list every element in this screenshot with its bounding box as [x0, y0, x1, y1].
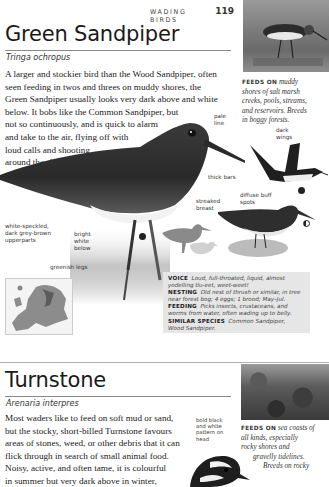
nesting-text: Old nest of thrush or similar, in tree	[201, 289, 301, 295]
title-rule	[5, 396, 231, 397]
nesting-label: NESTING	[168, 289, 197, 295]
flight-symbol-half-icon	[303, 220, 310, 227]
nesting-text: near forest bog; 4 eggs; 1 brood; May–Ju…	[168, 296, 305, 303]
body-line: Green Sandpiper usually looks very dark …	[5, 93, 218, 106]
feeds-on-green-sandpiper: FEEDS ON muddy shores of salt marsh cree…	[242, 78, 307, 126]
turnstone-head-illustration	[180, 448, 250, 487]
feeds-on-text: muddy	[279, 78, 298, 86]
annotation-thick-bars: thick bars	[208, 174, 236, 181]
voice-text: Loud, full-throated, liquid, almost	[192, 275, 285, 281]
standing-bird-illustration	[218, 200, 318, 260]
annotation-text: line	[214, 120, 226, 127]
body-line: Noisy, active, and often tame, it is col…	[5, 462, 180, 475]
voice-text: yodelling tlu-eet, weet-weet!	[168, 282, 305, 289]
annotation-text: streaked	[196, 198, 220, 205]
similar-species-text: Common Sandpiper,	[228, 318, 285, 324]
latin-name-turnstone: Arenaria interpres	[6, 399, 79, 408]
wading-bird-photo-icon	[243, 0, 329, 72]
green-sandpiper-photo	[243, 0, 329, 72]
feeds-on-text: creeks, pools, streams,	[242, 97, 307, 107]
body-line: but the stocky, short-billed Turnstone f…	[5, 425, 180, 438]
annotation-text: head	[196, 436, 223, 442]
annotation-dark-wings: dark wings	[276, 127, 292, 141]
body-line: flick through in search of small animal …	[5, 450, 180, 463]
feeds-on-text: rocky shores and	[241, 443, 315, 453]
body-line: A larger and stockier bird than the Wood…	[5, 68, 218, 81]
body-line: seen feeding in twos and threes on muddy…	[5, 81, 218, 94]
annotation-text: dark grey-brown	[5, 230, 51, 237]
feeds-on-text: all kinds, especially	[241, 434, 315, 444]
feeding-label: FEEDING	[168, 303, 197, 309]
similar-species-label: SIMILAR SPECIES	[168, 318, 225, 324]
annotation-text: pattern on	[196, 429, 223, 435]
feeds-on-text: sea coasts of	[278, 424, 315, 432]
feeding-text: worms from water, often wading up to bel…	[168, 310, 305, 317]
feeds-on-turnstone: FEEDS ON sea coasts of all kinds, especi…	[241, 424, 315, 472]
feeds-on-text: in boggy forests.	[242, 116, 307, 126]
annotation-text: upperparts	[5, 237, 51, 244]
annotation-text: white-speckled,	[5, 223, 51, 230]
species-info-box: VOICE Loud, full-throated, liquid, almos…	[163, 272, 310, 333]
latin-name-green-sandpiper: Tringa ochropus	[6, 53, 70, 62]
size-silhouette-icon	[160, 215, 220, 260]
running-head: WADING BIRDS 119	[150, 6, 234, 20]
annotation-text: bright	[74, 231, 91, 238]
feeding-text: Picks insects, crustaceans, and	[200, 303, 287, 309]
page-number: 119	[215, 6, 234, 16]
body-line: Most waders like to feed on soft mud or …	[5, 412, 180, 425]
annotation-pale-line: pale line	[214, 113, 226, 127]
annotation-text: breast	[196, 205, 220, 212]
feeds-on-text: and reservoirs. Breeds	[242, 107, 307, 117]
annotation-bright-white-below: bright white below	[74, 231, 91, 252]
flying-bird-illustration	[245, 140, 329, 190]
section-divider	[0, 362, 329, 363]
annotation-greenish-legs: greenish legs	[50, 264, 87, 271]
annotation-upperparts: white-speckled, dark grey-brown upperpar…	[5, 223, 51, 244]
feeds-on-text: shores of salt marsh	[242, 88, 307, 98]
title-rule	[5, 50, 231, 51]
flight-symbol-icon	[139, 233, 146, 240]
similar-species-text: Wood Sandpiper.	[168, 325, 305, 332]
annotation-text: white	[74, 238, 91, 245]
voice-label: VOICE	[168, 275, 188, 281]
annotation-head-pattern: bold black and white pattern on head	[196, 417, 223, 442]
feeds-on-label: FEEDS ON	[241, 425, 276, 431]
body-line: in summer but very dark above in winter,	[5, 475, 180, 487]
annotation-text: diffuse buff	[240, 192, 272, 199]
species-title-green-sandpiper: Green Sandpiper	[5, 22, 179, 46]
turnstone-description: Most waders like to feed on soft mud or …	[5, 412, 180, 487]
turnstone-photo	[241, 364, 329, 420]
feeds-on-text: Breeds on rocky	[241, 462, 315, 472]
species-title-turnstone: Turnstone	[5, 368, 106, 392]
europe-map-icon	[6, 279, 73, 335]
annotation-text: below	[74, 245, 91, 252]
feeds-on-label: FEEDS ON	[242, 79, 277, 85]
annotation-text: pale	[214, 113, 226, 120]
body-line: areas of stones, weed, or other debris t…	[5, 437, 180, 450]
annotation-text: dark	[276, 127, 292, 134]
flight-symbol-icon	[298, 187, 305, 194]
feeds-on-text: gravelly tidelines.	[241, 453, 315, 463]
distribution-map	[5, 278, 73, 335]
annotation-streaked-breast: streaked breast	[196, 198, 220, 212]
